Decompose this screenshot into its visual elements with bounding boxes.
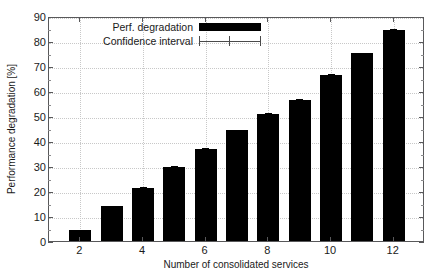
error-bar-cap-lower	[296, 105, 303, 106]
y-tick-mark	[48, 167, 53, 168]
legend-bar-swatch-icon	[199, 23, 261, 31]
y-tick-minor	[48, 30, 51, 31]
plot-inner	[49, 18, 423, 241]
y-tick-label: 90	[6, 12, 46, 23]
y-tick-mark-right	[419, 117, 424, 118]
bar	[101, 206, 123, 241]
y-tick-mark-right	[419, 42, 424, 43]
y-tick-label: 60	[6, 87, 46, 98]
error-bar-cap-lower	[359, 57, 366, 58]
y-tick-mark-right	[419, 242, 424, 243]
y-tick-minor	[48, 180, 51, 181]
x-tick-mark-top	[393, 17, 394, 22]
x-tick-label: 2	[59, 244, 99, 256]
x-tick-mark	[330, 237, 331, 242]
error-bar-cap-upper	[265, 113, 272, 114]
x-tick-mark	[393, 237, 394, 242]
y-tick-mark-right	[419, 67, 424, 68]
y-tick-label: 0	[6, 237, 46, 248]
legend-errorbar-swatch-icon	[199, 34, 261, 48]
y-tick-mark-right	[419, 192, 424, 193]
bar	[351, 53, 373, 241]
y-tick-mark-right	[419, 17, 424, 18]
error-bar-cap-lower	[171, 171, 178, 172]
y-tick-minor-right	[421, 55, 424, 56]
y-tick-minor-right	[421, 155, 424, 156]
y-tick-mark-right	[419, 217, 424, 218]
y-tick-label: 20	[6, 187, 46, 198]
error-bar-cap-lower	[328, 80, 335, 81]
y-tick-mark	[48, 42, 53, 43]
y-tick-minor	[48, 205, 51, 206]
y-tick-minor-right	[421, 130, 424, 131]
x-tick-mark-top	[267, 17, 268, 22]
chart-legend: Perf. degradation Confidence interval	[76, 20, 261, 50]
plot-area	[48, 17, 424, 242]
chart-figure: Performance degradation [%] 010203040506…	[0, 0, 437, 280]
error-bar-cap-lower	[140, 192, 147, 193]
y-tick-minor-right	[421, 230, 424, 231]
legend-label: Perf. degradation	[112, 20, 193, 34]
y-tick-mark	[48, 192, 53, 193]
error-bar-cap-upper	[234, 130, 241, 131]
x-tick-label: 8	[247, 244, 287, 256]
x-tick-label: 4	[122, 244, 162, 256]
y-tick-mark	[48, 117, 53, 118]
bar	[226, 130, 248, 241]
y-tick-mark-right	[419, 142, 424, 143]
bar	[195, 149, 217, 242]
error-bar-cap-lower	[234, 134, 241, 135]
legend-item-perf-degradation: Perf. degradation	[76, 20, 261, 34]
x-tick-mark	[205, 237, 206, 242]
bar	[289, 100, 311, 241]
x-tick-mark-top	[330, 17, 331, 22]
x-tick-label: 12	[373, 244, 413, 256]
y-tick-mark	[48, 142, 53, 143]
error-bar-cap-upper	[328, 74, 335, 75]
y-tick-label: 30	[6, 162, 46, 173]
x-tick-mark	[267, 237, 268, 242]
error-bar-cap-upper	[171, 166, 178, 167]
y-tick-mark	[48, 217, 53, 218]
error-bar-cap-lower	[202, 153, 209, 154]
x-tick-label: 6	[185, 244, 225, 256]
error-bar-cap-upper	[296, 99, 303, 100]
y-tick-minor	[48, 80, 51, 81]
y-tick-minor-right	[421, 80, 424, 81]
y-tick-minor-right	[421, 180, 424, 181]
error-bar-cap-lower	[390, 35, 397, 36]
legend-item-confidence-interval: Confidence interval	[76, 34, 261, 48]
y-tick-mark	[48, 17, 53, 18]
error-bar-cap-lower	[77, 234, 84, 235]
error-bar-cap-upper	[77, 230, 84, 231]
y-tick-minor	[48, 155, 51, 156]
error-bar-cap-upper	[108, 206, 115, 207]
legend-label: Confidence interval	[103, 34, 193, 48]
x-tick-mark	[79, 237, 80, 242]
y-tick-label: 80	[6, 37, 46, 48]
error-bar-cap-upper	[359, 53, 366, 54]
y-tick-minor-right	[421, 30, 424, 31]
y-tick-label: 50	[6, 112, 46, 123]
bar	[320, 75, 342, 241]
error-bar-cap-lower	[265, 119, 272, 120]
bar	[132, 188, 154, 241]
y-tick-minor	[48, 55, 51, 56]
y-tick-label: 10	[6, 212, 46, 223]
x-axis-label: Number of consolidated services	[48, 259, 424, 270]
bar	[163, 167, 185, 242]
bar	[257, 114, 279, 241]
x-tick-mark	[142, 237, 143, 242]
y-tick-mark-right	[419, 92, 424, 93]
gridline-horizontal	[49, 18, 423, 19]
y-tick-minor	[48, 230, 51, 231]
y-tick-label: 70	[6, 62, 46, 73]
x-tick-label: 10	[310, 244, 350, 256]
y-tick-mark	[48, 242, 53, 243]
y-tick-minor-right	[421, 105, 424, 106]
y-tick-mark	[48, 67, 53, 68]
y-tick-mark-right	[419, 167, 424, 168]
y-tick-minor	[48, 130, 51, 131]
error-bar-cap-upper	[202, 148, 209, 149]
y-tick-label: 40	[6, 137, 46, 148]
